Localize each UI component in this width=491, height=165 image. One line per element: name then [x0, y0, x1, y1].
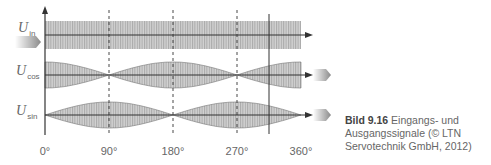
- axis-arrow-icon: [305, 72, 313, 78]
- input-arrow-icon: [15, 36, 41, 48]
- axis-arrow-icon: [305, 112, 313, 118]
- output-arrow-sin-icon: [313, 109, 331, 121]
- label-sub: in: [29, 29, 35, 38]
- label-main: U: [16, 103, 26, 118]
- y-axis-arrow-icon: [42, 6, 48, 14]
- x-tick-90: 90°: [101, 145, 118, 157]
- caption-number: Bild 9.16: [345, 114, 388, 126]
- x-tick-360: 360°: [290, 145, 313, 157]
- signal-label-in: Uin: [18, 21, 35, 35]
- label-main: U: [16, 63, 26, 78]
- figure-caption: Bild 9.16 Eingangs- und Ausgangssignale …: [345, 114, 491, 153]
- output-arrow-cos-icon: [313, 69, 331, 81]
- label-main: U: [18, 20, 28, 35]
- label-sub: cos: [27, 72, 39, 81]
- x-tick-270: 270°: [226, 145, 249, 157]
- label-sub: sin: [27, 112, 37, 121]
- signal-label-sin: Usin: [16, 104, 37, 118]
- x-tick-0: 0°: [40, 145, 51, 157]
- x-tick-180: 180°: [162, 145, 185, 157]
- signal-label-cos: Ucos: [16, 64, 40, 78]
- axis-arrow-icon: [305, 32, 313, 38]
